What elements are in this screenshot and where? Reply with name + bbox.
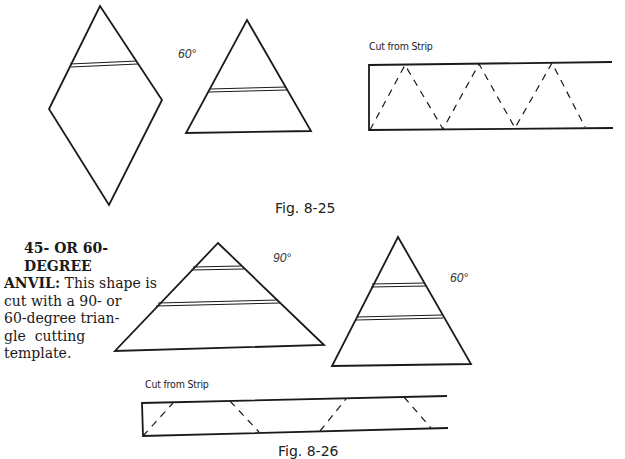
- angle-label-60-top: 60°: [178, 47, 196, 61]
- text-line-3: 60-degree trian-: [4, 310, 162, 328]
- section-heading: 45- OR 60-DEGREE: [4, 240, 162, 275]
- text-line-2: cut with a 90- or: [4, 293, 162, 311]
- angle-label-60-bottom: 60°: [450, 271, 468, 285]
- text-line-1-rest: This shape is: [60, 275, 157, 291]
- figure-caption-top: Fig. 8-25: [275, 200, 335, 216]
- triangle-60-top: [186, 20, 311, 133]
- angle-label-90: 90°: [273, 251, 291, 265]
- description-paragraph: 45- OR 60-DEGREE ANVIL: This shape is cu…: [4, 240, 162, 363]
- triangle-60-bottom: [332, 237, 471, 366]
- diamond-shape: [49, 6, 162, 205]
- text-line-5: template.: [4, 345, 162, 363]
- lead-term: ANVIL:: [4, 275, 60, 291]
- figure-caption-bottom: Fig. 8-26: [278, 443, 338, 459]
- strip-title-top: Cut from Strip: [369, 40, 433, 52]
- text-line-4: gle cutting: [4, 328, 162, 346]
- text-line-1: ANVIL: This shape is: [4, 275, 162, 293]
- strip-title-bottom: Cut from Strip: [145, 378, 209, 390]
- cut-strip-top: [369, 62, 613, 130]
- cut-strip-bottom: [142, 396, 448, 436]
